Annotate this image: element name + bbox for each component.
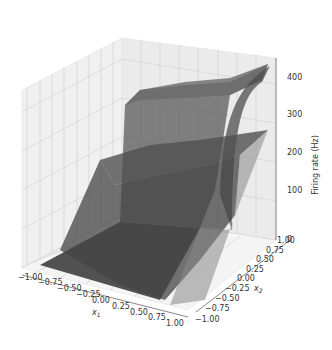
svg-text:−0.50: −0.50 [215,294,240,303]
svg-text:0.25: 0.25 [246,265,264,274]
surface-plot-3d: 0 100 200 300 400 Firing rate (Hz) 1.00 … [0,0,332,350]
svg-text:0.00: 0.00 [92,296,110,305]
svg-text:−0.75: −0.75 [205,304,230,313]
svg-text:−0.25: −0.25 [225,284,250,293]
svg-text:200: 200 [287,148,302,157]
y-axis-label: x2 [253,284,263,294]
svg-text:0.25: 0.25 [112,302,130,311]
svg-text:0.50: 0.50 [130,308,148,317]
z-axis-label: Firing rate (Hz) [311,135,320,195]
z-axis-ticks: 0 100 200 300 400 [287,73,302,244]
svg-text:1.00: 1.00 [277,236,295,245]
svg-text:0.75: 0.75 [266,246,284,255]
svg-text:400: 400 [287,73,302,82]
svg-text:0.00: 0.00 [237,274,255,283]
svg-text:1.00: 1.00 [166,319,184,328]
x-axis-label: x1 [91,308,101,318]
svg-text:300: 300 [287,110,302,119]
svg-text:0.75: 0.75 [148,313,166,322]
svg-text:−1.00: −1.00 [195,315,220,324]
svg-text:0.50: 0.50 [256,255,274,264]
svg-text:100: 100 [287,186,302,195]
